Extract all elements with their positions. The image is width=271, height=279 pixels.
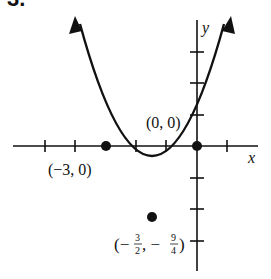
- point-vertex: [147, 212, 157, 222]
- parabola-figure: 3. x y (0, 0) (−3, 0) (− 3 2 , − 9: [0, 0, 271, 279]
- vertex-num2: 9: [171, 232, 176, 243]
- figure-number: 3.: [7, 0, 25, 11]
- label-vertex: (− 3 2 , − 9 4 ): [114, 232, 185, 256]
- y-axis-label: y: [200, 19, 210, 37]
- vertex-open: (−: [114, 235, 129, 254]
- label-neg3-0: (−3, 0): [48, 161, 92, 179]
- vertex-den1: 2: [135, 245, 140, 256]
- point-neg3-0: [101, 141, 111, 151]
- x-axis-label: x: [247, 149, 255, 166]
- vertex-close: ): [179, 235, 185, 254]
- label-origin: (0, 0): [146, 114, 181, 132]
- vertex-sep: , −: [142, 235, 160, 254]
- vertex-num1: 3: [135, 232, 140, 243]
- parabola-curve: [80, 24, 224, 156]
- point-origin: [192, 141, 202, 151]
- vertex-den2: 4: [171, 245, 176, 256]
